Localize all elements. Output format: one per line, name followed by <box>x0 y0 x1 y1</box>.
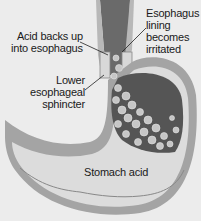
label-lower-esophageal-sphincter: Lower esophageal sphincter <box>30 74 85 110</box>
label-esophagus-lining: Esophagus lining becomes irritated <box>146 7 199 55</box>
label-stomach-acid: Stomach acid <box>84 166 148 178</box>
label-text: Acid backs up <box>11 30 83 42</box>
diagram-canvas: Acid backs up into esophagus Esophagus l… <box>0 0 201 221</box>
label-text: into esophagus <box>11 42 83 54</box>
label-text: Esophagus <box>146 7 199 19</box>
label-text: becomes <box>146 31 199 43</box>
label-text: lining <box>146 19 199 31</box>
label-text: esophageal <box>30 86 85 98</box>
label-text: Lower <box>30 74 85 86</box>
label-text: sphincter <box>30 98 85 110</box>
leader-sphincter <box>85 75 104 90</box>
sphincter-left <box>100 52 110 78</box>
label-acid-backs-up: Acid backs up into esophagus <box>11 30 83 54</box>
label-text: irritated <box>146 43 199 55</box>
